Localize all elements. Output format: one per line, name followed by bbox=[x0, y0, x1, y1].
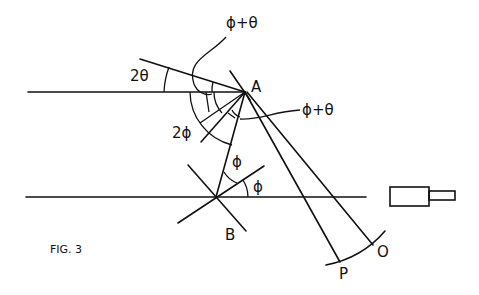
label-two-theta: 2θ bbox=[130, 67, 149, 85]
arc-two-phi bbox=[190, 92, 232, 145]
label-point-o: O bbox=[377, 243, 389, 261]
leader-phi-theta-top bbox=[192, 37, 226, 95]
label-two-phi: 2ϕ bbox=[172, 124, 192, 142]
leader-phi-theta-right bbox=[240, 110, 300, 119]
label-point-a: A bbox=[251, 78, 262, 96]
arc-two-theta bbox=[164, 67, 169, 92]
label-phi-upper: ϕ bbox=[232, 153, 242, 171]
camera-lens bbox=[429, 191, 455, 200]
fig-3-diagram: ϕ+θ 2θ A ϕ+θ 2ϕ ϕ ϕ B P O FIG. 3 bbox=[0, 0, 479, 295]
arc-phi-upper-b bbox=[224, 172, 237, 183]
camera-body bbox=[390, 187, 429, 206]
label-point-b: B bbox=[225, 226, 235, 244]
label-phi-plus-theta-right: ϕ+θ bbox=[302, 101, 334, 119]
arc-theta-inner bbox=[212, 82, 213, 92]
mirror-b-diagonal-2 bbox=[178, 166, 264, 223]
figure-caption: FIG. 3 bbox=[50, 243, 82, 256]
label-phi-plus-theta-top: ϕ+θ bbox=[226, 14, 258, 32]
label-phi-lower: ϕ bbox=[253, 178, 263, 196]
label-point-p: P bbox=[339, 265, 348, 283]
arc-phi-lower-b bbox=[243, 180, 248, 197]
